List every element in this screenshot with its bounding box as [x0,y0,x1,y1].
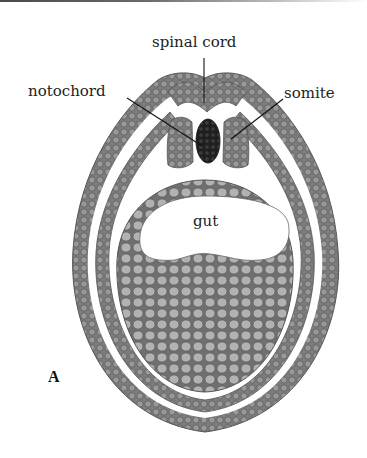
label-somite: somite [284,86,335,101]
panel-label: A [48,369,60,385]
notochord [196,119,220,163]
somite-right [223,117,249,168]
label-spinal-cord: spinal cord [152,35,236,50]
label-notochord: notochord [28,84,106,99]
somite-left [167,117,193,168]
label-gut: gut [193,214,218,229]
embryo-cross-section-diagram [0,0,367,458]
